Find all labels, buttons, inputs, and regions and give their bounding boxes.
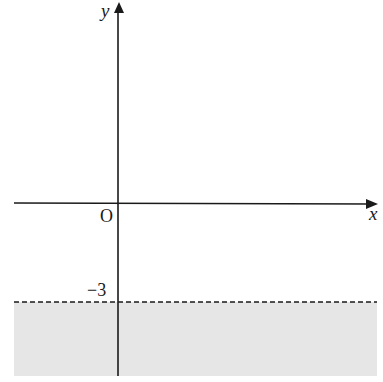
shaded-region [14, 302, 377, 376]
y-axis-label: y [101, 0, 109, 22]
y-axis-arrow-icon [114, 2, 124, 13]
origin-label: O [100, 206, 113, 227]
boundary-tick-label: −3 [87, 280, 106, 301]
graph-canvas [0, 0, 383, 382]
graph: y x O −3 [0, 0, 383, 382]
x-axis-label: x [369, 203, 377, 225]
x-axis [14, 203, 372, 204]
